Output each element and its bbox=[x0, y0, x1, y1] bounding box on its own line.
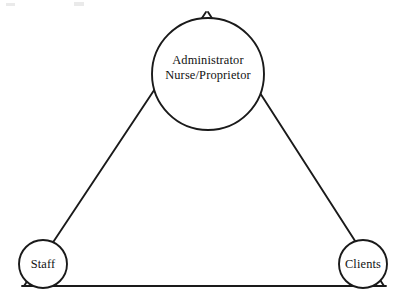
node-staff[interactable]: Staff bbox=[19, 240, 67, 288]
node-staff-label: Staff bbox=[31, 257, 56, 271]
node-administrator[interactable]: Administrator Nurse/Proprietor bbox=[152, 18, 264, 130]
triangle-relationship-diagram: Administrator Nurse/Proprietor Staff Cli… bbox=[0, 0, 406, 301]
diagram-canvas: Administrator Nurse/Proprietor Staff Cli… bbox=[0, 0, 406, 301]
scan-artifact-speck bbox=[6, 3, 15, 6]
node-administrator-label-line2: Nurse/Proprietor bbox=[165, 68, 251, 82]
node-clients-label: Clients bbox=[345, 257, 381, 271]
node-administrator-label-line1: Administrator bbox=[172, 53, 244, 67]
scan-artifact-speck bbox=[74, 2, 84, 6]
node-clients[interactable]: Clients bbox=[339, 240, 387, 288]
